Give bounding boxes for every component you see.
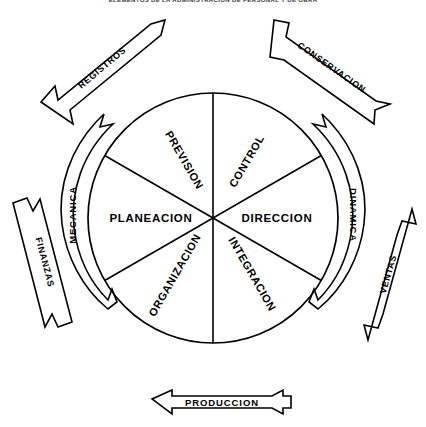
curved-arrow-dinamica-label: DINAMICA: [348, 188, 359, 242]
wheel-segment-prevision-label: PREVISION: [163, 129, 206, 192]
wheel-segment-prevision[interactable]: PREVISION: [163, 129, 206, 192]
wheel-segment-organizacion[interactable]: ORGANIZACION: [146, 232, 203, 319]
administration-cycle-diagram: REGISTROS CONSERVACION FINANZAS VENTAS M…: [0, 0, 426, 427]
wheel-segment-integracion[interactable]: INTEGRACION: [226, 235, 278, 313]
banner-conservacion[interactable]: CONSERVACION: [270, 20, 390, 124]
wheel-segment-control-label: CONTROL: [227, 133, 267, 190]
banner-ventas-label: VENTAS: [378, 254, 399, 295]
banner-registros[interactable]: REGISTROS: [41, 20, 165, 124]
banner-produccion[interactable]: PRODUCCION: [152, 390, 291, 414]
curved-arrow-mecanica-label: MECANICA: [67, 186, 78, 244]
wheel-segment-integracion-label: INTEGRACION: [226, 235, 278, 313]
banner-produccion-label: PRODUCCION: [185, 397, 259, 408]
banner-ventas[interactable]: VENTAS: [364, 209, 416, 340]
wheel-segment-planeacion[interactable]: PLANEACION: [109, 212, 192, 224]
wheel-segment-planeacion-label: PLANEACION: [109, 212, 192, 224]
wheel-segment-organizacion-label: ORGANIZACION: [146, 232, 203, 319]
wheel-segment-control[interactable]: CONTROL: [227, 133, 267, 190]
wheel-segment-direccion-label: DIRECCION: [242, 212, 313, 224]
wheel-group: PREVISION CONTROL DIRECCION INTEGRACION …: [88, 93, 338, 343]
diagram-canvas: ELEMENTOS DE LA ADMINISTRACION DE PERSON…: [0, 0, 426, 427]
wheel-segment-direccion[interactable]: DIRECCION: [242, 212, 313, 224]
